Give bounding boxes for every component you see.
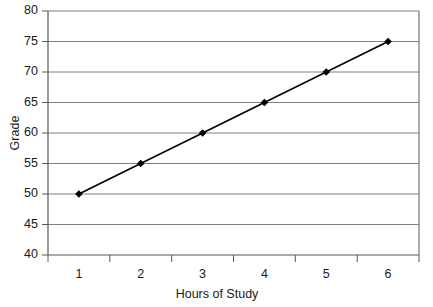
y-tick-label-55: 55 — [24, 156, 38, 170]
y-tick-label-80: 80 — [24, 3, 38, 17]
x-axis-title: Hours of Study — [176, 287, 259, 301]
x-tick-label-1: 1 — [75, 267, 82, 281]
x-tick-label-3: 3 — [199, 267, 206, 281]
y-tick-label-40: 40 — [24, 247, 38, 261]
x-tick-label-6: 6 — [385, 267, 392, 281]
y-tick-label-65: 65 — [24, 95, 38, 109]
y-tick-label-75: 75 — [24, 34, 38, 48]
y-tick-label-70: 70 — [24, 64, 38, 78]
x-tick-label-4: 4 — [261, 267, 268, 281]
chart-background — [0, 0, 433, 307]
y-axis-title: Grade — [8, 116, 22, 151]
chart-canvas: 80 75 70 65 60 55 50 45 40 1 2 3 4 5 6 — [0, 0, 433, 307]
line-chart: 80 75 70 65 60 55 50 45 40 1 2 3 4 5 6 — [0, 0, 433, 307]
y-tick-label-50: 50 — [24, 186, 38, 200]
x-tick-label-2: 2 — [137, 267, 144, 281]
x-tick-label-5: 5 — [323, 267, 330, 281]
y-tick-label-60: 60 — [24, 125, 38, 139]
y-tick-label-45: 45 — [24, 217, 38, 231]
y-axis-tick-labels: 80 75 70 65 60 55 50 45 40 — [24, 3, 38, 261]
